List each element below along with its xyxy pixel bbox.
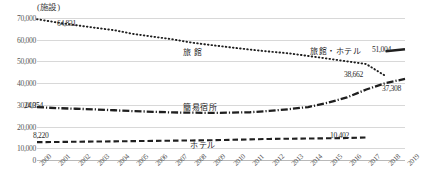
series-line-kanni-shukusho (37, 79, 405, 113)
y-axis-tick-labels: 70,000 60,000 50,000 40,000 30,000 20,00… (0, 0, 36, 194)
data-label-ryokan-start: 64,831 (57, 19, 76, 28)
y-tick-0: 0 (2, 156, 36, 165)
y-tick-50000: 50,000 (2, 57, 36, 66)
data-label-kanni-start: 24,354 (24, 101, 43, 110)
plot-area (37, 8, 405, 160)
series-label-ryokan-hotel: 旅館・ホテル (310, 45, 362, 56)
data-label-ryokan-hotel-end: 51,004 (372, 45, 391, 54)
y-tick-40000: 40,000 (2, 79, 36, 88)
data-label-hotel-end: 10,402 (330, 131, 349, 140)
data-label-kanni-end: 37,308 (382, 84, 401, 93)
x-axis-tick-labels: 2000 2001 2002 2003 2004 2005 2006 2007 … (37, 162, 405, 194)
x-tick-2019: 2019 (406, 153, 421, 168)
series-label-kanni: 簡易宿所 (183, 101, 217, 112)
y-tick-20000: 20,000 (2, 122, 36, 131)
data-label-hotel-start: 8,220 (33, 131, 49, 140)
series-label-ryokan: 旅 館 (183, 46, 203, 57)
series-label-hotel: ホテル (190, 139, 216, 150)
y-tick-60000: 60,000 (2, 35, 36, 44)
y-tick-70000: 70,000 (2, 14, 36, 23)
data-label-ryokan-end: 38,662 (344, 70, 363, 79)
y-tick-10000: 10,000 (2, 144, 36, 153)
series-paths (37, 8, 405, 160)
